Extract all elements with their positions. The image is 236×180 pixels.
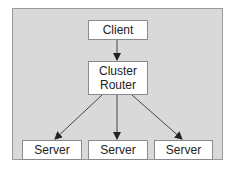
server-node-middle: Server [88, 140, 148, 160]
client-node: Client [88, 20, 148, 40]
server-node-left: Server [22, 140, 82, 160]
server-node-right: Server [154, 140, 213, 160]
server-label: Server [100, 143, 135, 157]
edge-router-server-left [55, 95, 102, 139]
client-label: Client [103, 23, 134, 37]
edge-router-server-right [132, 95, 182, 139]
cluster-router-node: Cluster Router [88, 61, 148, 95]
router-label-line1: Cluster [99, 64, 137, 78]
server-label: Server [166, 143, 201, 157]
server-label: Server [34, 143, 69, 157]
router-label-line2: Router [100, 78, 136, 92]
